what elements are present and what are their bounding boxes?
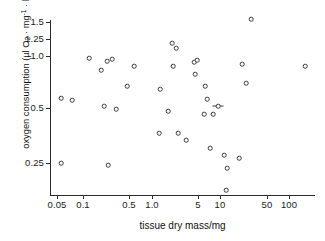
- data-point: [240, 62, 245, 67]
- data-point: [70, 98, 75, 103]
- data-point: [158, 87, 163, 92]
- data-point: [105, 59, 110, 64]
- x-tick-label: 50: [262, 200, 273, 210]
- data-point: [59, 161, 64, 166]
- data-point: [216, 104, 221, 109]
- y-tick-mark: [46, 22, 50, 23]
- y-tick-mark: [46, 39, 50, 40]
- data-point: [87, 56, 92, 61]
- x-tick-label: 0.1: [76, 200, 90, 210]
- data-point: [132, 64, 137, 69]
- y-axis-title-wrapper: oxygen consumption (µl O2 · mg-1 · h-1): [18, 0, 34, 156]
- x-tick-label: 5: [195, 200, 200, 210]
- data-point: [205, 97, 210, 102]
- data-point: [99, 68, 104, 73]
- data-point: [225, 166, 230, 171]
- data-point: [171, 64, 176, 69]
- data-point: [303, 64, 308, 69]
- y-tick-label: 0.25: [0, 158, 44, 168]
- data-point: [244, 81, 249, 86]
- data-point: [125, 84, 130, 89]
- data-point: [222, 153, 227, 158]
- y-axis-title: oxygen consumption (µl O2 · mg-1 · h-1): [18, 0, 33, 156]
- x-tick-label: 0.5: [122, 200, 136, 210]
- x-tick-label: 10: [215, 200, 226, 210]
- data-point: [102, 104, 107, 109]
- y-axis-line: [50, 20, 51, 196]
- data-point: [157, 131, 162, 136]
- x-axis-title: tissue dry mass/mg: [50, 220, 315, 231]
- data-point: [203, 84, 208, 89]
- scatter-plot-figure: 1.51.251.00.50.25 0.050.10.51.051050100 …: [0, 0, 325, 241]
- x-axis-line: [50, 195, 315, 196]
- y-tick-mark: [46, 108, 50, 109]
- data-point: [184, 138, 189, 143]
- x-tick-label: 100: [281, 200, 297, 210]
- data-point: [224, 188, 229, 193]
- data-point: [208, 146, 213, 151]
- y-tick-mark: [46, 56, 50, 57]
- data-point: [193, 72, 198, 77]
- x-tick-label: 1.0: [145, 200, 159, 210]
- data-point: [59, 96, 64, 101]
- data-point: [170, 41, 175, 46]
- data-point: [106, 163, 111, 168]
- data-point: [195, 58, 200, 63]
- y-tick-mark: [46, 163, 50, 164]
- data-point: [166, 109, 171, 114]
- data-point: [249, 17, 254, 22]
- data-point: [211, 112, 216, 117]
- data-point: [202, 112, 207, 117]
- data-point: [174, 46, 179, 51]
- data-point: [176, 131, 181, 136]
- data-point: [237, 156, 242, 161]
- x-tick-label: 0.05: [48, 200, 67, 210]
- data-point: [110, 57, 115, 62]
- data-point: [114, 107, 119, 112]
